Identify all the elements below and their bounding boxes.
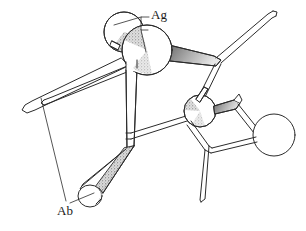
rod-lower-fork <box>187 121 257 202</box>
ag-sphere-main <box>122 25 172 75</box>
sphere-far-right <box>253 114 295 156</box>
rod-upper-right <box>169 11 277 104</box>
figure-canvas: Ag Ab <box>0 0 306 231</box>
rod-left-arm <box>22 58 137 113</box>
rod-ab-taper <box>78 146 134 207</box>
label-antigen: Ag <box>151 8 167 21</box>
label-antibody: Ab <box>57 204 73 217</box>
molecular-line-drawing <box>0 0 306 231</box>
sphere-small-right <box>184 87 216 127</box>
